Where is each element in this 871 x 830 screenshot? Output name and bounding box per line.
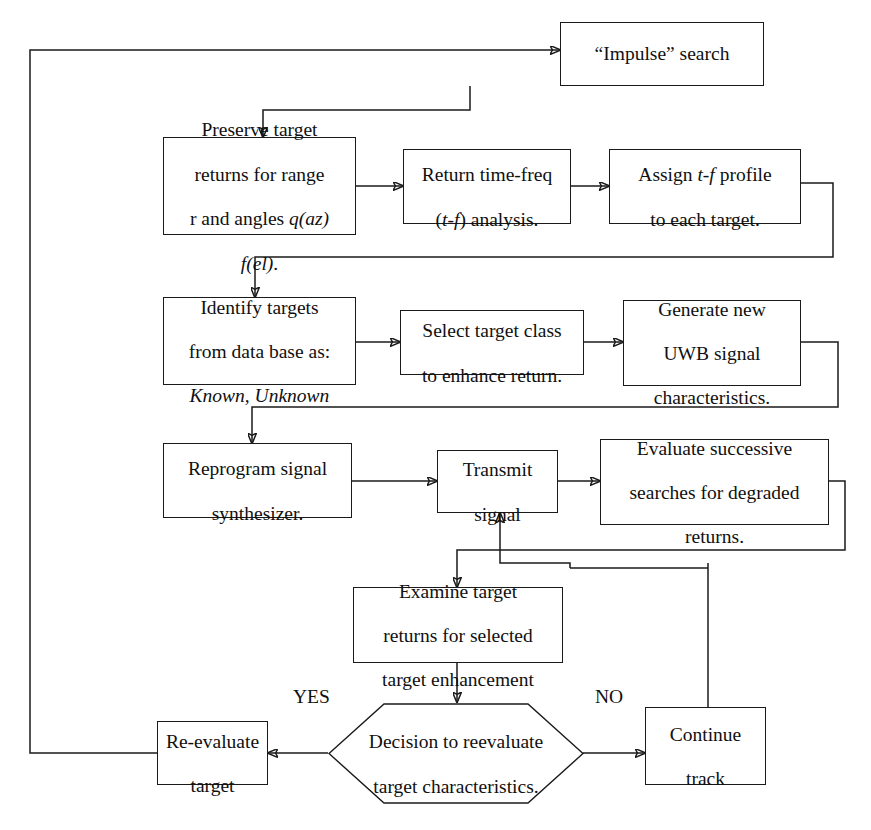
text-line: target enhancement [382,669,534,690]
text-line: Re-evaluate [166,731,259,752]
text-math: f(el) [241,253,273,274]
node-decision-hexagon[interactable]: Decision to reevaluate target characteri… [328,703,584,804]
text-line: target [190,775,234,796]
text-line: Evaluate successive [637,438,792,459]
text-math: t-f [442,209,459,230]
node-impulse-search-label: “Impulse” search [590,43,735,65]
text-line: from data base as: [189,341,330,362]
node-preserve-target[interactable]: Preserve target returns for range r and … [163,137,356,235]
node-reprogram-synthesizer[interactable]: Reprogram signal synthesizer. [163,443,352,518]
node-preserve-target-label: Preserve target returns for range r and … [185,97,334,275]
text-line: Decision to reevaluate [369,731,543,752]
edge-label-no: NO [595,686,623,708]
text-line: returns for selected [383,625,532,646]
node-return-time-freq[interactable]: Return time-freq (t-f) analysis. [403,149,571,224]
node-identify-targets-label: Identify targets from data base as: Know… [184,274,335,407]
text-line: Preserve target [201,119,317,140]
node-return-time-freq-label: Return time-freq (t-f) analysis. [417,142,558,231]
text-line: r and angles [190,208,289,229]
node-generate-uwb-label: Generate new UWB signal characteristics. [649,276,775,409]
node-reprogram-synthesizer-label: Reprogram signal synthesizer. [183,436,332,525]
node-decision-label: Decision to reevaluate target characteri… [328,703,584,804]
text-line: track [686,768,725,789]
node-impulse-search[interactable]: “Impulse” search [560,22,764,86]
text-line: Assign [638,164,697,185]
node-reevaluate-target-label: Re-evaluate target [161,709,264,798]
text-line: Reprogram signal [188,458,327,479]
text-line: synthesizer. [212,503,304,524]
node-select-target-class[interactable]: Select target class to enhance return. [400,310,584,375]
node-transmit-signal[interactable]: Transmit signal [437,450,558,513]
text-line: searches for degraded [630,482,800,503]
node-select-target-class-label: Select target class to enhance return. [417,298,567,387]
node-evaluate-searches[interactable]: Evaluate successive searches for degrade… [600,439,829,525]
edge-label-yes: YES [293,686,330,708]
node-identify-targets[interactable]: Identify targets from data base as: Know… [163,297,356,385]
text-line: returns for range [195,164,325,185]
text-line: Return time-freq [422,164,553,185]
text-math: Known, Unknown [190,385,330,406]
text-line: Select target class [422,320,561,341]
text-line: Transmit [463,459,533,480]
node-examine-target[interactable]: Examine target returns for selected targ… [353,587,563,663]
node-examine-target-label: Examine target returns for selected targ… [377,558,539,691]
text-line: characteristics. [654,387,770,408]
text-math: q(az) [289,208,329,229]
text-line: Identify targets [200,297,318,318]
node-continue-track[interactable]: Continue track [645,707,766,785]
text-line: to each target. [650,209,760,230]
text-line: ) analysis. [459,209,538,230]
text-line: . [273,253,278,274]
node-generate-uwb[interactable]: Generate new UWB signal characteristics. [623,300,801,386]
node-reevaluate-target[interactable]: Re-evaluate target [157,721,268,785]
text-math: t-f [697,164,714,185]
text-line: profile [715,164,772,185]
node-transmit-signal-label: Transmit signal [458,437,538,526]
node-assign-tf-profile[interactable]: Assign t-f profile to each target. [609,149,801,224]
text-line: Continue [670,724,742,745]
text-line: signal [474,504,521,525]
flowchart-canvas: “Impulse” search Preserve target returns… [0,0,871,830]
node-evaluate-searches-label: Evaluate successive searches for degrade… [625,415,805,548]
text-line: Examine target [399,581,517,602]
text-line: Generate new [658,299,766,320]
text-line: target characteristics. [373,776,538,797]
node-continue-track-label: Continue track [665,702,747,791]
node-assign-tf-profile-label: Assign t-f profile to each target. [633,142,776,231]
text-line: UWB signal [664,343,761,364]
text-line: to enhance return. [422,365,562,386]
text-line: returns. [685,526,744,547]
